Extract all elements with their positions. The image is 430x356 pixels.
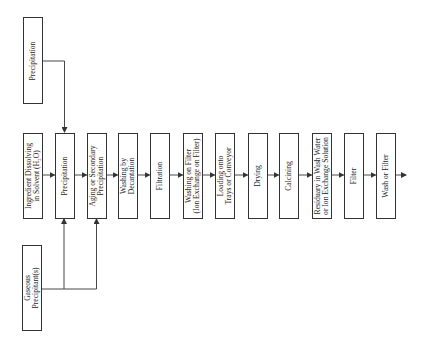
step-loading-onto-trays: Loading onto Trays or Conveyor <box>215 133 235 219</box>
edge-gaseous-to-aging <box>64 219 97 289</box>
step-filtration: Filtration <box>150 133 170 219</box>
edge-gaseous-to-precipitation <box>41 219 64 289</box>
input-box-label: Precipitation <box>29 41 37 80</box>
step-aging-secondary-precipitation: Aging or Secondary Precipitation <box>87 133 107 219</box>
step-precipitation: Precipitation <box>55 133 75 219</box>
input-box-label: Gaseous Precipitant(s) <box>24 268 41 309</box>
step-wash-or-filter: Wash or Filter <box>376 133 396 219</box>
input-box-precipitation: Precipitation <box>23 17 43 104</box>
step-washing-on-filter: Washing on Filter (Ion Exchange on Filte… <box>183 133 203 219</box>
step-label: Residuary in Wash Water or Ion Exchange … <box>314 137 331 215</box>
step-drying: Drying <box>248 133 268 219</box>
step-filter: Filter <box>344 133 364 219</box>
step-label: Wash or Filter <box>382 154 390 197</box>
step-label: Precipitation <box>61 157 69 196</box>
step-ingredient-dissolving: Ingredient Dissolving in Solvent (H₂O) <box>23 133 43 219</box>
step-label: Washing by Decantation <box>120 158 137 195</box>
step-label: Loading onto Trays or Conveyor <box>217 147 234 204</box>
input-box-gaseous-precipitants: Gaseous Precipitant(s) <box>22 245 42 331</box>
step-label: Calcining <box>285 161 293 191</box>
step-label: Drying <box>254 165 262 187</box>
step-label: Filter <box>350 168 358 184</box>
edge-top-input-to-precipitation <box>43 61 65 132</box>
step-residuary-wash-water: Residuary in Wash Water or Ion Exchange … <box>312 133 332 219</box>
step-label: Aging or Secondary Precipitation <box>89 145 106 206</box>
step-label: Ingredient Dissolving in Solvent (H₂O) <box>25 143 42 209</box>
step-label: Washing on Filter (Ion Exchange on Filte… <box>185 139 202 214</box>
step-washing-by-decantation: Washing by Decantation <box>118 133 138 219</box>
step-calcining: Calcining <box>279 133 299 219</box>
step-label: Filtration <box>156 162 164 190</box>
